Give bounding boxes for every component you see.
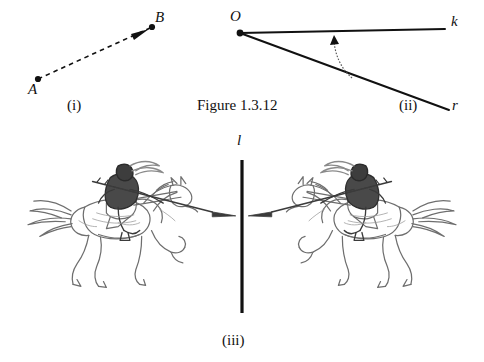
figure-canvas bbox=[0, 0, 484, 362]
mirror-line-label: l bbox=[237, 133, 241, 148]
knight-on-horseback-left bbox=[28, 161, 236, 287]
panel-i-label: (i) bbox=[67, 98, 81, 113]
point-a-label: A bbox=[28, 82, 37, 97]
knight-on-horseback-right bbox=[248, 161, 456, 287]
angle-arc-arrowhead bbox=[330, 35, 339, 45]
arrowhead-b bbox=[131, 29, 149, 40]
figure-caption: Figure 1.3.12 bbox=[197, 98, 277, 113]
point-b-label: B bbox=[155, 10, 164, 25]
panel-ii-label: (ii) bbox=[399, 98, 417, 113]
panel-iii-label: (iii) bbox=[222, 333, 245, 348]
ray-r-label: r bbox=[452, 98, 458, 113]
vertex-o-dot bbox=[237, 30, 244, 37]
panel-i-directed-segment bbox=[35, 24, 155, 82]
vertex-o-label: O bbox=[230, 9, 241, 24]
panel-iii-reflection bbox=[28, 160, 456, 313]
ray-k-label: k bbox=[451, 14, 458, 29]
ray-k bbox=[240, 29, 445, 33]
